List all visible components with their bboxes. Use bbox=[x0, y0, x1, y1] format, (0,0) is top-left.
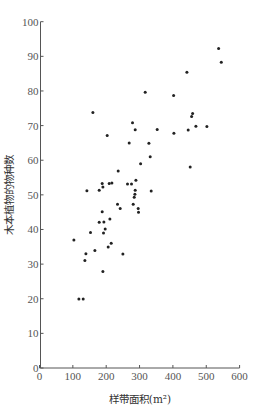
data-point bbox=[172, 132, 175, 135]
data-point bbox=[106, 134, 109, 137]
data-point bbox=[119, 207, 122, 210]
data-point bbox=[121, 253, 124, 256]
data-point bbox=[189, 166, 192, 169]
x-axis: 0100200300400500600 bbox=[37, 365, 249, 382]
data-point bbox=[77, 298, 80, 301]
x-tick-label: 400 bbox=[165, 370, 182, 382]
y-tick-label: 40 bbox=[28, 223, 40, 235]
data-point bbox=[101, 185, 104, 188]
y-axis-title: 木本植物的物种数 bbox=[3, 154, 15, 235]
data-point bbox=[82, 298, 85, 301]
x-tick-label: 100 bbox=[65, 370, 82, 382]
data-point bbox=[126, 183, 129, 186]
scatter-chart: 0100200300400500600 01020304050607080901… bbox=[0, 0, 256, 411]
y-tick-label: 100 bbox=[22, 16, 39, 28]
y-tick-label: 30 bbox=[28, 258, 40, 270]
y-tick-label: 70 bbox=[28, 120, 40, 132]
data-point bbox=[217, 47, 220, 50]
data-point bbox=[137, 207, 140, 210]
data-point bbox=[91, 111, 94, 114]
data-point bbox=[131, 121, 134, 124]
y-axis: 0102030405060708090100 bbox=[22, 16, 44, 374]
data-point bbox=[149, 155, 152, 158]
x-tick-label: 600 bbox=[231, 370, 248, 382]
data-point bbox=[110, 242, 113, 245]
data-point bbox=[150, 190, 153, 193]
y-tick-label: 60 bbox=[28, 154, 40, 166]
data-point bbox=[107, 246, 110, 249]
data-point bbox=[93, 249, 96, 252]
data-point bbox=[220, 61, 223, 64]
data-point bbox=[139, 162, 142, 165]
data-point bbox=[156, 128, 159, 131]
x-tick-label: 300 bbox=[131, 370, 148, 382]
x-axis-title: 样带面积(m²) bbox=[109, 393, 171, 405]
data-point bbox=[85, 189, 88, 192]
data-point bbox=[84, 252, 87, 255]
data-point bbox=[98, 189, 101, 192]
y-tick-label: 20 bbox=[28, 293, 40, 305]
data-point bbox=[172, 94, 175, 97]
y-tick-label: 90 bbox=[28, 50, 40, 62]
y-tick-label: 10 bbox=[28, 327, 40, 339]
data-point bbox=[205, 125, 208, 128]
data-point bbox=[190, 115, 193, 118]
data-point bbox=[104, 228, 107, 231]
data-point bbox=[102, 220, 105, 223]
data-point bbox=[101, 270, 104, 273]
data-point bbox=[108, 218, 111, 221]
data-point bbox=[137, 211, 140, 214]
data-point bbox=[98, 221, 101, 224]
data-point bbox=[116, 203, 119, 206]
data-point bbox=[128, 141, 131, 144]
data-point bbox=[133, 193, 136, 196]
data-point bbox=[102, 231, 105, 234]
y-tick-label: 80 bbox=[28, 85, 40, 97]
data-point bbox=[191, 112, 194, 115]
data-point bbox=[101, 210, 104, 213]
data-point bbox=[187, 129, 190, 132]
data-points bbox=[72, 47, 222, 301]
data-point bbox=[130, 183, 133, 186]
data-point bbox=[83, 259, 86, 262]
data-point bbox=[133, 196, 136, 199]
data-point bbox=[132, 203, 135, 206]
data-point bbox=[72, 238, 75, 241]
data-point bbox=[117, 170, 120, 173]
data-point bbox=[147, 142, 150, 145]
data-point bbox=[89, 231, 92, 234]
data-point bbox=[134, 128, 137, 131]
x-tick-label: 200 bbox=[98, 370, 115, 382]
x-tick-label: 500 bbox=[198, 370, 215, 382]
data-point bbox=[134, 189, 137, 192]
y-tick-label: 0 bbox=[33, 362, 39, 374]
data-point bbox=[101, 182, 104, 185]
data-point bbox=[108, 182, 111, 185]
data-point bbox=[134, 179, 137, 182]
data-point bbox=[194, 125, 197, 128]
data-point bbox=[110, 182, 113, 185]
data-point bbox=[185, 71, 188, 74]
y-tick-label: 50 bbox=[28, 189, 40, 201]
data-point bbox=[144, 91, 147, 94]
